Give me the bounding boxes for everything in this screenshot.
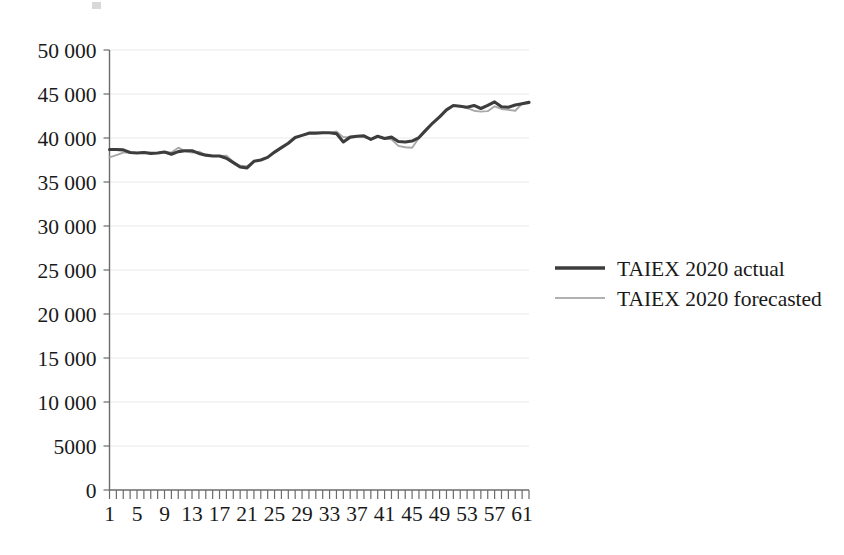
y-tick-label: 30 000 bbox=[37, 215, 96, 239]
scan-artifact bbox=[92, 2, 101, 9]
x-tick-label: 53 bbox=[456, 502, 478, 526]
x-tick-label: 37 bbox=[346, 502, 368, 526]
y-tick-label: 50 000 bbox=[37, 39, 96, 63]
x-tick-label: 57 bbox=[484, 502, 506, 526]
x-tick-label: 61 bbox=[511, 502, 533, 526]
x-tick-label: 1 bbox=[104, 502, 115, 526]
y-tick-label: 0 bbox=[86, 479, 97, 503]
gridlines bbox=[110, 50, 530, 446]
y-tick-label: 15 000 bbox=[37, 347, 96, 371]
y-tick-label: 10 000 bbox=[37, 391, 96, 415]
x-tick-label: 33 bbox=[319, 502, 341, 526]
x-tick-label: 29 bbox=[291, 502, 313, 526]
x-tick-label: 21 bbox=[236, 502, 258, 526]
chart-legend: TAIEX 2020 actualTAIEX 2020 forecasted bbox=[555, 257, 822, 311]
series-line-actual bbox=[110, 102, 530, 168]
y-axis-tick-labels: 50 00045 00040 00035 00030 00025 00020 0… bbox=[37, 39, 96, 503]
y-tick-label: 35 000 bbox=[37, 171, 96, 195]
y-axis-ticks bbox=[104, 50, 110, 490]
x-tick-label: 45 bbox=[401, 502, 423, 526]
x-tick-label: 17 bbox=[209, 502, 231, 526]
y-tick-label: 25 000 bbox=[37, 259, 96, 283]
x-tick-label: 9 bbox=[159, 502, 170, 526]
x-axis-ticks bbox=[110, 490, 530, 499]
y-tick-label: 5000 bbox=[54, 435, 97, 459]
x-tick-label: 25 bbox=[264, 502, 286, 526]
y-tick-label: 20 000 bbox=[37, 303, 96, 327]
legend-label: TAIEX 2020 actual bbox=[617, 257, 785, 281]
legend-label: TAIEX 2020 forecasted bbox=[617, 287, 822, 311]
x-tick-label: 13 bbox=[181, 502, 203, 526]
x-axis-tick-labels: 15913172125293337414549535761 bbox=[104, 502, 533, 526]
chart-container: 50 00045 00040 00035 00030 00025 00020 0… bbox=[0, 0, 844, 555]
x-tick-label: 49 bbox=[429, 502, 451, 526]
y-tick-label: 45 000 bbox=[37, 83, 96, 107]
y-tick-label: 40 000 bbox=[37, 127, 96, 151]
x-tick-label: 41 bbox=[374, 502, 396, 526]
line-chart: 50 00045 00040 00035 00030 00025 00020 0… bbox=[0, 0, 844, 555]
x-tick-label: 5 bbox=[132, 502, 143, 526]
